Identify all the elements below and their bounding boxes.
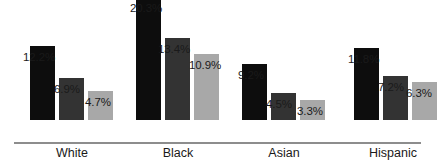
bar-label-hispanic-series-2: 7.2% bbox=[378, 82, 404, 94]
bar-label-asian-series-1: 9.2% bbox=[238, 70, 264, 82]
bar-label-white-series-2: 6.9% bbox=[54, 84, 80, 96]
plot-area: 12.2% 6.9% 4.7% 20.3% 13.4% 10.9% 9.2% 4… bbox=[0, 0, 435, 144]
bar-black-series-1 bbox=[136, 0, 161, 120]
category-label-asian: Asian bbox=[242, 147, 326, 160]
bar-label-hispanic-series-1: 11.8% bbox=[348, 54, 379, 66]
bar-label-black-series-3: 10.9% bbox=[189, 60, 221, 72]
bar-label-asian-series-3: 3.3% bbox=[297, 106, 323, 118]
x-axis-line bbox=[14, 142, 421, 144]
bar-label-white-series-1: 12.2% bbox=[23, 52, 55, 64]
bar-label-white-series-3: 4.7% bbox=[85, 97, 111, 109]
bar-label-hispanic-series-3: 6.3% bbox=[406, 88, 432, 100]
bar-label-black-series-2: 13.4% bbox=[158, 44, 190, 56]
bar-label-black-series-1: 20.3% bbox=[130, 3, 162, 15]
bar-label-asian-series-2: 4.5% bbox=[266, 99, 292, 111]
category-label-white: White bbox=[30, 147, 114, 160]
category-label-black: Black bbox=[136, 147, 220, 160]
category-label-hispanic: Hispanic bbox=[351, 147, 435, 160]
